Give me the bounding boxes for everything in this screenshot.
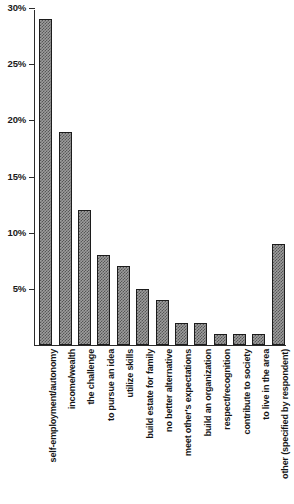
bar-chart: 5%10%15%20%25%30% self-employment/autono…	[0, 0, 294, 504]
x-axis-label: contribute to society	[243, 349, 252, 434]
x-axis-label: respect/recognition	[223, 349, 232, 430]
bar	[272, 244, 285, 345]
x-axis-label: build estate for family	[146, 349, 155, 439]
y-axis-tick	[29, 233, 35, 234]
y-axis-tick-label: 15%	[0, 172, 26, 182]
bar	[194, 323, 207, 345]
y-axis-tick	[29, 8, 35, 9]
y-axis-tick-label: 5%	[0, 284, 26, 294]
bar	[117, 266, 130, 345]
bar	[252, 334, 265, 345]
y-axis-tick-label: 20%	[0, 115, 26, 125]
bar	[78, 210, 91, 345]
x-axis-label: income/wealth	[68, 349, 77, 409]
x-axis-label: the challenge	[87, 349, 96, 405]
y-axis-tick-label: 25%	[0, 59, 26, 69]
y-axis-tick-label: 30%	[0, 3, 26, 13]
bar	[175, 323, 188, 345]
bar	[136, 289, 149, 345]
bar	[59, 132, 72, 345]
bars-container	[34, 8, 286, 346]
y-axis-tick	[29, 64, 35, 65]
bar	[156, 300, 169, 345]
x-axis-labels: self-employment/autonomyincome/wealththe…	[34, 349, 286, 501]
y-axis-tick	[29, 120, 35, 121]
bar	[214, 334, 227, 345]
bar	[39, 19, 52, 345]
x-axis-label: other (specified by respondent)	[281, 349, 290, 479]
y-axis-tick	[29, 177, 35, 178]
x-axis-label: no better alternative	[165, 349, 174, 432]
y-axis-tick-label: 10%	[0, 228, 26, 238]
bar	[97, 255, 110, 345]
bar	[233, 334, 246, 345]
x-axis-label: self-employment/autonomy	[49, 349, 58, 462]
x-axis-label: build an organization	[204, 349, 213, 436]
plot-area	[34, 8, 286, 346]
y-axis-tick	[29, 289, 35, 290]
x-axis-label: utilize skills	[126, 349, 135, 397]
x-axis-label: to pursue an idea	[107, 349, 116, 421]
x-axis-label: meet other's expectations	[184, 349, 193, 456]
x-axis-label: to live in the area	[262, 349, 271, 420]
